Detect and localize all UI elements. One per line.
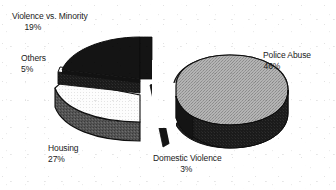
slice-label-percent: 27% (48, 154, 79, 165)
slice-label-percent: 3% (153, 164, 222, 175)
slice-label-others: Others 5% (21, 53, 47, 75)
slice-label-percent: 46% (263, 61, 311, 72)
slice-label-name: Housing (48, 143, 79, 154)
slice-label-housing: Housing 27% (48, 143, 79, 165)
slice-label-violence-vs-minority: Violence vs. Minority 19% (12, 11, 88, 33)
slice-label-police-abuse: Police Abuse 46% (263, 50, 311, 72)
slice-label-domestic-violence: Domestic Violence 3% (153, 153, 222, 175)
pie-chart: Violence vs. Minority 19% Others 5% Hous… (0, 0, 336, 190)
slice-label-percent: 5% (21, 64, 47, 75)
slice-label-name: Others (21, 53, 47, 64)
slice-label-name: Domestic Violence (153, 153, 222, 164)
slice-label-percent: 19% (12, 22, 88, 33)
slice-label-name: Violence vs. Minority (12, 11, 88, 22)
slice-label-name: Police Abuse (263, 50, 311, 61)
